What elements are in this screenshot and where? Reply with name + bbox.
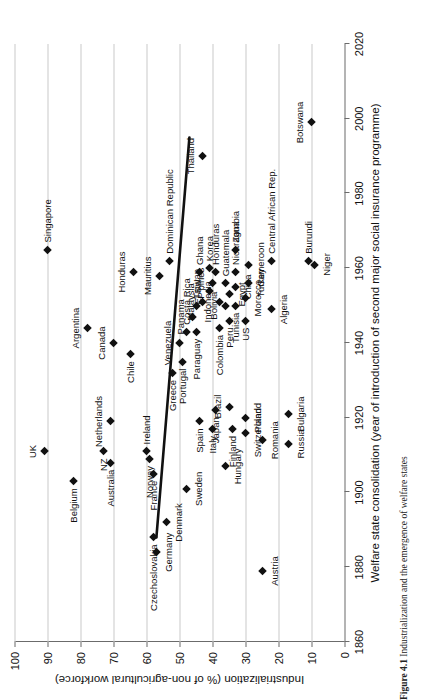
data-point-label: Australia bbox=[105, 470, 115, 507]
data-point-label: UK bbox=[27, 445, 37, 458]
x-tick-label: 1980 bbox=[352, 181, 364, 205]
x-tick-label: 1900 bbox=[352, 480, 364, 504]
data-point-label: Ireland bbox=[141, 415, 151, 444]
x-tick bbox=[344, 566, 349, 567]
y-tick bbox=[311, 642, 312, 647]
x-tick-label: 1880 bbox=[352, 555, 364, 579]
y-tick-label: 40 bbox=[206, 652, 218, 664]
data-point-label: Colombia bbox=[214, 335, 224, 375]
figure-caption-text: Industrialization and the emergence of w… bbox=[398, 456, 408, 656]
y-tick-label: 50 bbox=[173, 652, 185, 664]
data-point-label: Austria bbox=[269, 556, 279, 586]
y-tick bbox=[47, 642, 48, 647]
data-point-label: Greece bbox=[168, 380, 178, 411]
data-point-label: US bbox=[240, 328, 250, 341]
y-tick-label: 30 bbox=[239, 652, 251, 664]
data-point-label: Niger bbox=[321, 253, 331, 276]
y-tick-label: 10 bbox=[305, 652, 317, 664]
x-tick-label: 1940 bbox=[352, 331, 364, 355]
y-tick bbox=[14, 642, 15, 647]
x-axis-title: Welfare state consolidation (year of int… bbox=[368, 44, 380, 642]
y-axis-title: Industrialization (% of non-agricultural… bbox=[14, 674, 344, 686]
data-point-label: Honduras bbox=[116, 251, 126, 292]
data-point-label: Sweden bbox=[193, 472, 203, 506]
x-tick-label: 2000 bbox=[352, 107, 364, 131]
y-tick bbox=[179, 642, 180, 647]
data-point-label: Germany bbox=[163, 533, 173, 572]
data-point-label: Central African Rep. bbox=[267, 169, 277, 254]
data-point-label: Paraguay bbox=[191, 339, 201, 380]
y-tick bbox=[113, 642, 114, 647]
data-point-label: Portugal bbox=[178, 369, 188, 404]
y-tick bbox=[212, 642, 213, 647]
x-tick bbox=[344, 118, 349, 119]
x-tick-label: 1920 bbox=[352, 406, 364, 430]
data-point-label: Bulgaria bbox=[295, 397, 305, 432]
figure: 186018801900192019401960198020002020 010… bbox=[0, 0, 423, 700]
y-tick bbox=[245, 642, 246, 647]
data-point-label: Finland bbox=[227, 436, 237, 467]
data-point-label: France bbox=[148, 481, 158, 511]
data-point-label: Tunisia bbox=[230, 313, 240, 343]
data-point-label: Ghana bbox=[194, 236, 204, 265]
y-tick bbox=[80, 642, 81, 647]
y-tick-label: 0 bbox=[338, 652, 350, 658]
data-point-label: Dominican Republic bbox=[164, 169, 174, 253]
y-tick-label: 20 bbox=[272, 652, 284, 664]
data-point-label: Botswana bbox=[295, 102, 305, 144]
data-point-label: Burundi bbox=[303, 221, 313, 254]
y-tick-label: 100 bbox=[8, 652, 20, 670]
x-tick-label: 1960 bbox=[352, 256, 364, 280]
y-tick-label: 90 bbox=[41, 652, 53, 664]
y-tick bbox=[344, 642, 345, 647]
x-tick bbox=[344, 267, 349, 268]
x-tick-label: 2020 bbox=[352, 32, 364, 56]
data-point-label: Netherlands bbox=[93, 396, 103, 447]
data-point-label: Cameroon bbox=[255, 242, 265, 286]
y-tick-label: 80 bbox=[74, 652, 86, 664]
data-point-label: Belgium bbox=[69, 488, 79, 522]
figure-caption-label: Figure 4.1 bbox=[398, 659, 408, 700]
y-tick bbox=[278, 642, 279, 647]
x-tick bbox=[344, 417, 349, 418]
data-point-label: Venezuela bbox=[163, 321, 173, 365]
data-point-label: Algeria bbox=[278, 295, 288, 325]
x-tick bbox=[344, 342, 349, 343]
data-point-label: Thailand bbox=[186, 138, 196, 174]
data-point-label: Mauritius bbox=[143, 256, 153, 295]
data-point-label: Russia bbox=[295, 429, 305, 458]
data-point-label: Honduras bbox=[211, 224, 221, 265]
x-tick bbox=[344, 43, 349, 44]
y-tick bbox=[146, 642, 147, 647]
data-point-label: Argentina bbox=[70, 308, 80, 349]
data-point-label: Poland bbox=[252, 403, 262, 433]
data-point-label: Panama bbox=[176, 299, 186, 334]
data-point-label: Bolivia bbox=[209, 292, 219, 320]
x-tick bbox=[344, 492, 349, 493]
data-point-label: Denmark bbox=[173, 503, 183, 542]
figure-caption: Figure 4.1 Industrialization and the eme… bbox=[398, 0, 410, 700]
y-tick-label: 70 bbox=[107, 652, 119, 664]
data-point-label: Singapore bbox=[42, 199, 52, 242]
data-point-label: Zambia bbox=[230, 211, 240, 243]
x-tick-label: 1860 bbox=[352, 630, 364, 654]
data-point-label: Spain bbox=[194, 429, 204, 453]
data-point-label: Japan bbox=[211, 417, 221, 443]
data-point-label: Guatemala bbox=[220, 230, 230, 276]
rotated-figure-stage: 186018801900192019401960198020002020 010… bbox=[0, 0, 423, 700]
data-point-label: Canada bbox=[97, 326, 107, 359]
y-tick-label: 60 bbox=[140, 652, 152, 664]
data-point-label: Romania bbox=[269, 421, 279, 459]
plot-area: 186018801900192019401960198020002020 010… bbox=[14, 44, 344, 642]
data-point-label: Brazil bbox=[212, 395, 222, 419]
data-point-label: Chile bbox=[125, 361, 135, 383]
x-tick bbox=[344, 193, 349, 194]
